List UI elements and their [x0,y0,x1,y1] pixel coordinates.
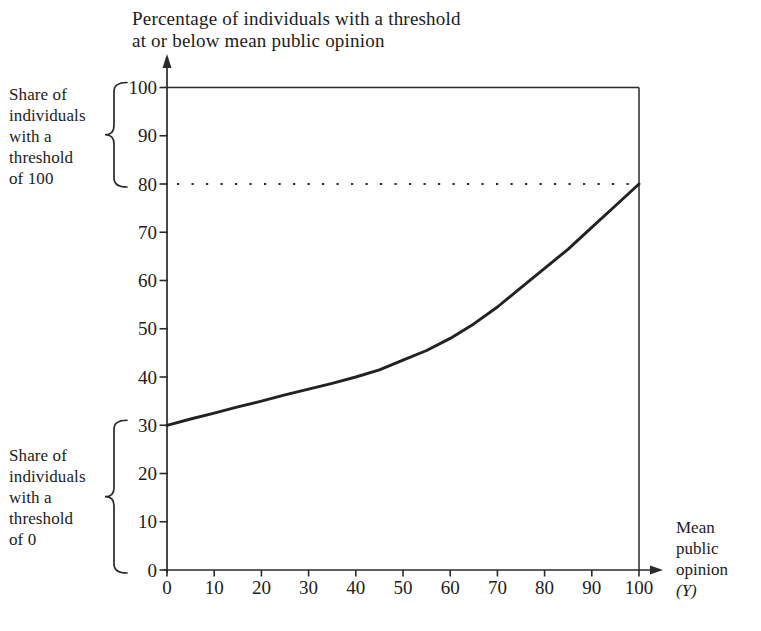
brace-threshold-0 [105,420,127,573]
y-tick-label: 10 [138,511,157,532]
series-line [167,184,639,425]
x-tick-label: 20 [252,577,271,598]
y-tick-label: 30 [138,415,157,436]
y-tick-label: 100 [129,77,158,98]
y-tick-label: 20 [138,463,157,484]
x-tick-label: 70 [488,577,507,598]
x-tick-label: 60 [441,577,460,598]
brace-threshold-100 [105,83,127,188]
x-tick-label: 30 [299,577,318,598]
x-tick-label: 100 [625,577,654,598]
y-tick-label: 90 [138,125,157,146]
x-tick-label: 10 [205,577,224,598]
x-axis-arrow-icon [650,565,663,574]
x-tick-label: 90 [582,577,601,598]
y-tick-label: 50 [138,318,157,339]
y-axis-arrow-icon [163,54,172,68]
y-tick-label: 60 [138,270,157,291]
book-figure: Percentage of individuals with a thresho… [0,0,761,631]
x-tick-label: 80 [535,577,554,598]
x-tick-label: 50 [394,577,413,598]
x-tick-label: 40 [346,577,365,598]
chart-canvas: 0102030405060708090100010203040506070809… [0,0,761,631]
y-tick-label: 40 [138,367,157,388]
y-tick-label: 0 [148,560,158,581]
y-tick-label: 80 [138,174,157,195]
x-tick-label: 0 [162,577,172,598]
y-tick-label: 70 [138,222,157,243]
